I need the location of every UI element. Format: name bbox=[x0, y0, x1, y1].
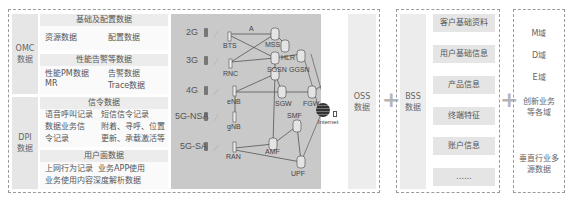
basic-config-title: 基础及配置数据 bbox=[40, 14, 168, 26]
domain-m: M域 bbox=[513, 28, 565, 39]
performance-alarm-title: 性能告警等数据 bbox=[40, 54, 168, 66]
attach-paging-location: 附着、寻呼、位置 bbox=[101, 122, 165, 132]
node-internet: Internet bbox=[318, 119, 338, 125]
link-a-label: A bbox=[249, 25, 254, 32]
oss-label: OSS 数据 bbox=[348, 14, 376, 189]
bss-item-customer-profile: 客户基础资料 bbox=[433, 14, 495, 32]
signaling-records: 令记录 bbox=[45, 134, 69, 144]
node-enb: eNB bbox=[227, 98, 241, 105]
gen-2g: 2G bbox=[186, 27, 198, 37]
node-amf: AMF bbox=[265, 148, 280, 155]
domain-innovation: 创新业务 等各域 bbox=[513, 96, 565, 118]
bss-label: BSS 数据 bbox=[400, 14, 426, 189]
signaling-title: 信令数据 bbox=[40, 97, 168, 109]
bss-item-terminal-features: 终端特征 bbox=[433, 107, 495, 125]
omc-label: OMC 数据 bbox=[12, 14, 38, 94]
node-sgw: SGW bbox=[275, 100, 292, 107]
dpi-label: DPI 数据 bbox=[12, 97, 38, 189]
trace-data: Trace数据 bbox=[108, 81, 145, 91]
gen-3g: 3G bbox=[186, 55, 198, 65]
internet-globe-icon bbox=[316, 103, 330, 117]
data-service-signaling: 数据业务信 bbox=[45, 122, 85, 132]
gen-4g: 4G bbox=[186, 85, 198, 95]
performance-alarm-body: 性能PM数据 告警数据 MR Trace数据 bbox=[40, 66, 168, 94]
user-plane-body: 上网行为记录 业务APP使用 业务使用内容深度解析数据 bbox=[40, 162, 168, 189]
gen-5g-nsa: 5G-NSA bbox=[175, 111, 209, 121]
alarm-data: 告警数据 bbox=[108, 69, 140, 79]
node-gnb: gNB bbox=[227, 123, 241, 130]
node-rnc: RNC bbox=[223, 70, 238, 77]
gen-5g-sa: 5G-SA bbox=[180, 141, 207, 151]
voice-call-records: 语音呼叫记录 bbox=[45, 110, 93, 120]
signaling-body: 语音呼叫记录 短信信令记录 数据业务信 附着、寻呼、位置 令记录 更新、承载激活… bbox=[40, 109, 168, 147]
mr-data: MR bbox=[45, 79, 57, 89]
resource-data: 资源数据 bbox=[45, 33, 77, 43]
bss-label-text: BSS 数据 bbox=[405, 91, 421, 113]
node-ran: RAN bbox=[226, 153, 241, 160]
bss-item-more: ...... bbox=[433, 168, 495, 186]
dpi-label-text: DPI 数据 bbox=[17, 132, 33, 154]
domain-e: E域 bbox=[513, 72, 565, 83]
network-topology-icon bbox=[171, 14, 321, 189]
pm-data: 性能PM数据 bbox=[45, 69, 89, 79]
content-deep-parsing-data: 业务使用内容深度解析数据 bbox=[45, 176, 141, 186]
bss-item-product-info: 产品信息 bbox=[433, 76, 495, 94]
node-ggsn: GGSN bbox=[289, 66, 310, 73]
node-smf: SMF bbox=[287, 112, 302, 119]
bss-item-user-info: 用户基础信息 bbox=[433, 45, 495, 63]
node-sgsn: SGSN bbox=[267, 66, 287, 73]
omc-label-text: OMC 数据 bbox=[16, 43, 35, 65]
config-data: 配置数据 bbox=[108, 33, 140, 43]
update-bearer-activation: 更新、承载激活等 bbox=[101, 134, 165, 144]
node-mss: MSS bbox=[265, 41, 280, 48]
domain-d: D域 bbox=[513, 50, 565, 61]
domain-vertical-industry: 垂直行业多 源数据 bbox=[510, 153, 568, 175]
bss-item-account-info: 账户信息 bbox=[433, 137, 495, 155]
node-bts: BTS bbox=[223, 42, 237, 49]
oss-label-text: OSS 数据 bbox=[354, 91, 370, 113]
sms-signaling-records: 短信信令记录 bbox=[101, 110, 149, 120]
node-upf: UPF bbox=[291, 170, 305, 177]
basic-config-body: 资源数据 配置数据 bbox=[40, 26, 168, 50]
node-hlr: HLR bbox=[281, 54, 295, 61]
terminal-icon bbox=[333, 111, 337, 117]
network-diagram: 2G 3G 4G 5G-NSA 5G-SA A BTS RNC eNB gNB … bbox=[171, 14, 321, 189]
user-plane-title: 用户面数据 bbox=[40, 150, 168, 162]
internet-behavior-records: 上网行为记录 业务APP使用 bbox=[45, 164, 145, 174]
